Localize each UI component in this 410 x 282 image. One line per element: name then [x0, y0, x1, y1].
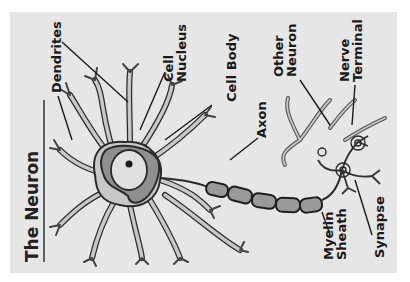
- label-myelin-sheath: Myelin Sheath: [322, 208, 348, 260]
- label-axon: Axon: [255, 101, 268, 138]
- other-neuron: [283, 98, 385, 165]
- label-cell-body: Cell Body: [225, 34, 238, 102]
- diagram-title: The Neuron: [22, 151, 42, 262]
- myelin-sheath: [205, 181, 323, 214]
- nerve-terminals: [318, 136, 380, 194]
- leader-lines: [58, 42, 372, 235]
- label-other-neuron: Other Neuron: [272, 23, 298, 77]
- axon-terminal-line: [322, 170, 342, 200]
- cell-nucleus: [111, 150, 147, 190]
- label-synapse: Synapse: [373, 196, 386, 258]
- label-nerve-terminal: Nerve Terminal: [338, 19, 364, 82]
- label-dendrites: Dendrites: [50, 21, 63, 93]
- label-cell-nucleus: Cell Nucleus: [162, 24, 188, 82]
- nucleolus: [126, 161, 133, 168]
